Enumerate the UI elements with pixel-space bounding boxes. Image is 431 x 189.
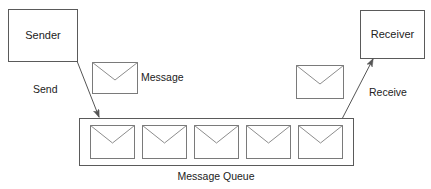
queue-item[interactable]: [195, 126, 239, 159]
sender-label: Sender: [25, 29, 61, 41]
receive-edge-label: Receive: [369, 86, 407, 98]
message-label: Message: [141, 71, 184, 83]
send-edge-label: Send: [33, 83, 58, 95]
receiver-label: Receiver: [371, 28, 415, 40]
queue-item[interactable]: [143, 126, 187, 159]
message-queue-caption: Message Queue: [177, 170, 254, 182]
edge-receive: Receive: [342, 59, 407, 119]
edge-send: Send: [33, 61, 99, 117]
message-queue-container[interactable]: Message Queue: [80, 119, 354, 182]
queue-item[interactable]: [91, 126, 135, 159]
message-queue-diagram: Sender Receiver Send Receive Message: [0, 0, 431, 189]
queue-item[interactable]: [299, 126, 343, 159]
diagram-canvas: Sender Receiver Send Receive Message: [0, 0, 431, 189]
message-envelope-right[interactable]: [297, 66, 344, 99]
node-receiver[interactable]: Receiver: [361, 11, 425, 59]
node-sender[interactable]: Sender: [9, 10, 78, 62]
queue-item[interactable]: [247, 126, 291, 159]
message-envelope-left[interactable]: Message: [93, 63, 184, 94]
